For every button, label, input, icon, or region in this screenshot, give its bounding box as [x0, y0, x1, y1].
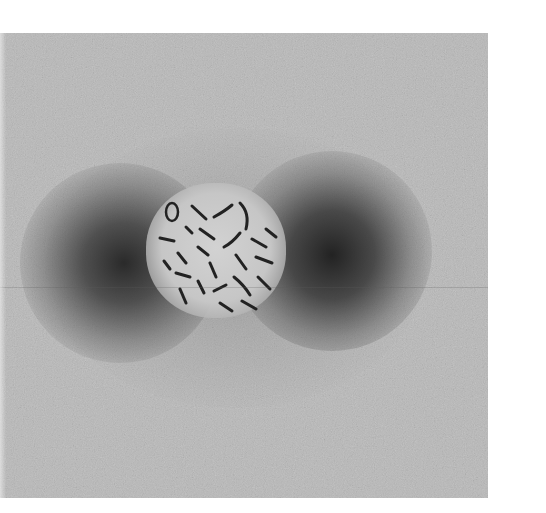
scan-line-artifact — [0, 287, 488, 288]
micrograph-image — [0, 33, 488, 498]
left-edge-fade — [0, 33, 6, 498]
chromosomes — [0, 33, 488, 498]
